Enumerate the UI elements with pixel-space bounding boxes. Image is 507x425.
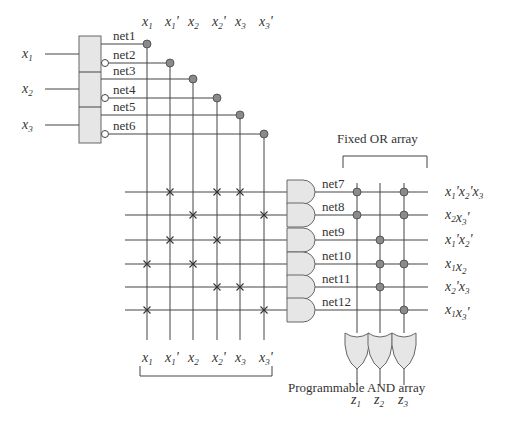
- net-label: net11: [322, 271, 350, 286]
- and-gate: [287, 203, 315, 227]
- and-array-bracket: [140, 366, 272, 376]
- literal-label-bottom: x2': [211, 350, 227, 367]
- or-connection-dot: [376, 236, 384, 244]
- or-connection-dot: [400, 306, 408, 314]
- literal-label-top: x2': [211, 14, 227, 31]
- literal-label-bottom: x1': [164, 350, 180, 367]
- connection-dot: [189, 75, 197, 83]
- input-label: x2: [21, 81, 33, 98]
- input-label: x3: [21, 117, 33, 134]
- connection-dot: [236, 111, 244, 119]
- gates: [287, 180, 416, 369]
- inverter-bubble: [102, 131, 109, 138]
- net-label: net12: [322, 294, 351, 309]
- and-gate: [287, 228, 315, 252]
- net-label: net10: [322, 248, 351, 263]
- and-gate: [287, 180, 315, 204]
- net-label: net5: [113, 99, 135, 114]
- connection-dot: [260, 130, 268, 138]
- net-label: net4: [113, 82, 136, 97]
- net-label: net1: [113, 28, 135, 43]
- literal-label-top: x3': [258, 14, 274, 31]
- inverter-bubble: [102, 95, 109, 102]
- or-connection-dot: [353, 188, 361, 196]
- input-buffer-block: [79, 36, 101, 143]
- product-term-label: x1x3': [444, 302, 470, 322]
- input-label: x1: [21, 46, 33, 63]
- literal-label-top: x1: [141, 14, 153, 31]
- and-gate: [287, 252, 315, 276]
- or-connection-dot: [376, 260, 384, 268]
- product-term-label: x2x3': [444, 207, 470, 227]
- or-connection-dot: [376, 283, 384, 291]
- literal-label-bottom: x2: [187, 350, 199, 367]
- or-gate: [392, 333, 417, 369]
- and-gate: [287, 298, 315, 322]
- or-gate: [368, 333, 393, 369]
- or-connection-dot: [400, 260, 408, 268]
- connection-dot: [213, 94, 221, 102]
- literal-label-bottom: x1: [141, 350, 153, 367]
- or-connection-dot: [400, 188, 408, 196]
- product-term-label: x1'x2'x3: [444, 184, 484, 201]
- or-connection-dot: [400, 211, 408, 219]
- product-term-label: x1x2: [444, 256, 467, 276]
- or-gate: [345, 333, 370, 369]
- or-array-label: Fixed OR array: [337, 131, 418, 146]
- net-label: net2: [113, 47, 135, 62]
- net-label: net8: [322, 199, 344, 214]
- net-label: net7: [322, 176, 345, 191]
- pla-diagram: Programmable AND array Fixed OR array x1…: [0, 0, 507, 425]
- or-connection-dot: [353, 211, 361, 219]
- literal-label-top: x2: [187, 14, 199, 31]
- literal-label-bottom: x3: [234, 350, 246, 367]
- net-label: net9: [322, 224, 344, 239]
- product-term-label: x1'x2': [444, 232, 473, 249]
- inverter-bubble: [102, 60, 109, 67]
- input-buffer: [79, 36, 101, 143]
- and-gate: [287, 275, 315, 299]
- literal-label-top: x3: [234, 14, 246, 31]
- literal-label-bottom: x3': [258, 350, 274, 367]
- literal-label-top: x1': [164, 14, 180, 31]
- and-array-label: Programmable AND array: [288, 380, 426, 395]
- connection-dot: [143, 40, 151, 48]
- product-term-label: x2'x3: [444, 279, 470, 296]
- connection-dot: [166, 59, 174, 67]
- or-array-bracket: [343, 156, 427, 168]
- net-label: net3: [113, 63, 135, 78]
- net-label: net6: [113, 118, 136, 133]
